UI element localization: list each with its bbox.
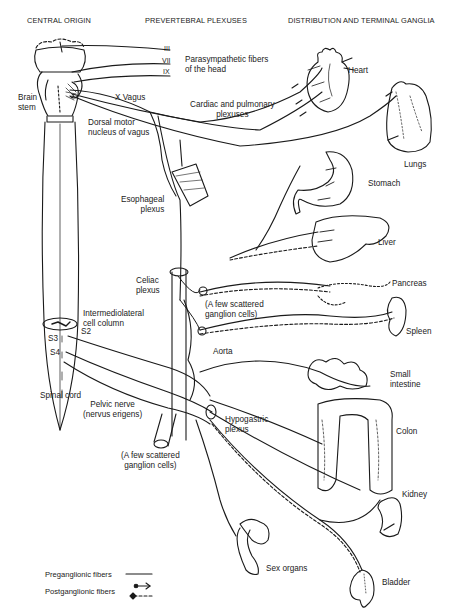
- legend-postganglionic: Postganglionic fibers: [45, 587, 115, 596]
- brain-stem-drawing: [35, 39, 86, 122]
- label-cardiac-pulmonary-plexuses: Cardiac and pulmonary plexuses: [190, 100, 275, 119]
- header-prevertebral-plexuses: PREVERTEBRAL PLEXUSES: [145, 16, 247, 25]
- label-x-vagus: X Vagus: [115, 93, 145, 103]
- cranial-nerve-ix: IX: [163, 67, 170, 77]
- sex-organs-drawing: [237, 519, 269, 574]
- legend-preganglionic: Preganglionic fibers: [45, 570, 112, 579]
- esophagus-drawing: [172, 164, 208, 206]
- legend-samples: [126, 574, 154, 599]
- label-hypogastric-plexus: Hypogastric plexus: [225, 415, 268, 434]
- label-dorsal-motor-nucleus: Dorsal motor nucleus of vagus: [88, 118, 149, 137]
- pelvic-vessel-drawing: [154, 414, 176, 448]
- label-parasympathetic-head: Parasympathetic fibers of the head: [185, 55, 268, 74]
- label-scattered-ganglion-lower: (A few scattered ganglion cells): [121, 451, 180, 470]
- organ-label-bladder: Bladder: [382, 578, 410, 588]
- lungs-drawing: [386, 82, 431, 152]
- organ-label-sex-organs: Sex organs: [266, 564, 307, 574]
- organ-label-pancreas: Pancreas: [392, 279, 427, 289]
- cranial-nerve-fibers: [62, 46, 170, 83]
- liver-drawing: [230, 216, 389, 262]
- header-distribution: DISTRIBUTION AND TERMINAL GANGLIA: [288, 16, 435, 25]
- label-s2: S2: [81, 327, 91, 337]
- label-celiac-plexus: Celiac plexus: [136, 276, 160, 295]
- organ-label-heart: Heart: [348, 66, 368, 76]
- label-s4: S4: [50, 348, 60, 358]
- cranial-nerve-vii: VII: [162, 56, 171, 66]
- label-esophageal-plexus: Esophageal plexus: [121, 195, 164, 214]
- small-intestine-drawing: [200, 358, 370, 389]
- spinal-cord-drawing: [42, 122, 78, 430]
- parasympathetic-diagram: CENTRAL ORIGIN PREVERTEBRAL PLEXUSES DIS…: [0, 0, 452, 612]
- organ-label-colon: Colon: [396, 427, 417, 437]
- label-spinal-cord: Spinal cord: [40, 391, 81, 401]
- bladder-drawing: [350, 570, 374, 607]
- colon-drawing: [210, 399, 392, 494]
- cranial-nerve-iii: III: [164, 44, 170, 54]
- organ-label-spleen: Spleen: [406, 327, 432, 337]
- stomach-drawing: [256, 152, 353, 250]
- organ-label-liver: Liver: [378, 238, 396, 248]
- heart-drawing: [307, 48, 354, 112]
- label-aorta: Aorta: [213, 347, 233, 357]
- pelvic-nerve-fibers: [64, 336, 380, 572]
- organ-label-stomach: Stomach: [368, 179, 400, 189]
- label-s3: S3: [48, 334, 58, 344]
- organ-label-lungs: Lungs: [404, 160, 426, 170]
- label-brain-stem: Brain stem: [18, 93, 37, 112]
- kidney-drawing: [378, 498, 402, 537]
- organ-label-kidney: Kidney: [402, 490, 427, 500]
- label-pelvic-nerve: Pelvic nerve (nervus erigens): [83, 400, 142, 419]
- organ-label-small-intestine: Small intestine: [390, 370, 421, 389]
- label-scattered-ganglion-upper: (A few scattered ganglion cells): [205, 300, 264, 319]
- header-central-origin: CENTRAL ORIGIN: [27, 16, 91, 25]
- label-intermediolateral-cell-column: Intermediolateral cell column: [83, 309, 144, 328]
